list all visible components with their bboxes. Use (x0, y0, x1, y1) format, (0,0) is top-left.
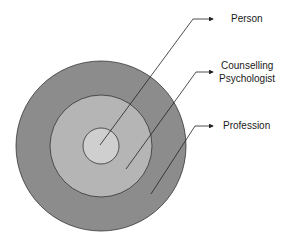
counselling-label-line1: Counselling (221, 60, 273, 72)
counselling-label-line2: Psychologist (219, 73, 275, 85)
profession-label: Profession (223, 120, 270, 132)
person-circle (83, 128, 119, 164)
person-label: Person (231, 13, 263, 25)
